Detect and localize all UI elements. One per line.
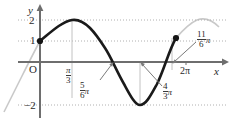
annotation-11pi-over-6-suffix: π (206, 35, 211, 45)
x-axis-label: x (214, 66, 219, 77)
annotation-5pi-over-6: 5 6 π (80, 81, 89, 101)
sine-curve-figure: y x O 2 1 −2 π 3 5 6 π 4 3 π 11 6 π 2π (0, 0, 237, 124)
annotation-5pi-over-6-suffix: π (85, 86, 90, 96)
x-tick-2pi: 2π (180, 66, 190, 76)
x-tick-pi-over-3-numerator: π (66, 66, 71, 75)
annotation-11pi-over-6-numerator: 11 (197, 30, 206, 39)
annotation-11pi-over-6: 11 6 π (197, 30, 210, 50)
x-tick-pi-over-3: π 3 (66, 66, 71, 86)
start-point-dot (37, 38, 43, 44)
y-tick-2: 2 (29, 15, 35, 26)
end-point-dot (173, 35, 179, 41)
leader-11pi-over-6 (174, 42, 196, 62)
origin-label: O (29, 64, 37, 75)
x-tick-pi-over-3-denominator: 3 (66, 75, 71, 85)
annotation-11pi-over-6-denominator: 6 (197, 39, 206, 49)
y-tick-1: 1 (30, 35, 36, 46)
annotation-4pi-over-3: 4 3 π (163, 82, 172, 102)
x-axis-arrow (222, 59, 229, 66)
leader-4pi-over-3 (142, 64, 162, 86)
annotation-4pi-over-3-suffix: π (168, 87, 173, 97)
y-tick-neg2: −2 (24, 100, 36, 111)
y-axis-arrow (37, 4, 44, 11)
leader-5pi-over-6 (100, 64, 112, 80)
